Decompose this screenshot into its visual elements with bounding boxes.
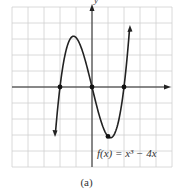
point-marker xyxy=(90,85,95,90)
point-marker xyxy=(106,134,111,139)
figure-caption: (a) xyxy=(0,176,173,188)
y-axis-label: y xyxy=(93,0,98,5)
function-label: f(x) = x³ − 4x xyxy=(97,147,157,160)
function-graph: y f(x) = x³ − 4x xyxy=(0,0,173,192)
point-marker xyxy=(122,85,127,90)
point-marker xyxy=(58,85,63,90)
